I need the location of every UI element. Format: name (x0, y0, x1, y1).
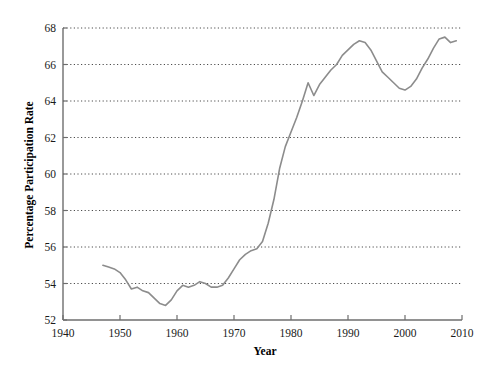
data-series-line (103, 37, 456, 305)
y-tick-label: 64 (45, 95, 57, 107)
y-tick-label: 66 (45, 59, 57, 71)
x-tick-label: 2010 (451, 327, 474, 339)
x-axis-ticks (63, 315, 462, 320)
y-tick-label: 56 (45, 241, 57, 253)
x-tick-label: 1990 (337, 327, 360, 339)
x-tick-label: 1940 (52, 327, 75, 339)
x-tick-labels: 19401950196019701980199020002010 (52, 327, 474, 339)
y-tick-label: 58 (45, 205, 57, 217)
y-tick-label: 62 (45, 132, 57, 144)
x-tick-label: 2000 (394, 327, 417, 339)
x-tick-label: 1980 (280, 327, 303, 339)
y-tick-labels: 525456586062646668 (45, 22, 57, 326)
y-tick-label: 52 (45, 314, 57, 326)
x-tick-label: 1970 (223, 327, 246, 339)
line-chart-plot: 19401950196019701980199020002010 5254565… (0, 0, 485, 367)
y-tick-label: 54 (45, 278, 57, 290)
gridlines-horizontal (63, 28, 462, 284)
x-axis-title: Year (254, 345, 277, 357)
x-tick-label: 1950 (109, 327, 132, 339)
y-axis-title: Percentage Participation Rate (23, 101, 36, 248)
chart-container: 19401950196019701980199020002010 5254565… (0, 0, 485, 367)
y-tick-label: 68 (45, 22, 57, 34)
x-tick-label: 1960 (166, 327, 189, 339)
y-tick-label: 60 (45, 168, 57, 180)
series-line-labor-force-participation-rate (103, 37, 456, 305)
